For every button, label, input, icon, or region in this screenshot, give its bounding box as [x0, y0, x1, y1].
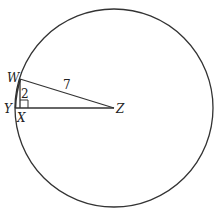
label-z: Z [115, 102, 125, 116]
right-angle-mark [20, 100, 28, 108]
length-wx: 2 [21, 87, 29, 101]
label-y: Y [4, 102, 13, 116]
length-wz: 7 [63, 78, 71, 92]
label-x: X [16, 111, 26, 125]
geometry-diagram: W Y X Z 7 2 [0, 0, 217, 208]
label-w: W [7, 71, 21, 85]
